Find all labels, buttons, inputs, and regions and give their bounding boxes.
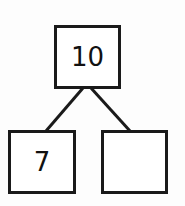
- line-to-right-part: [91, 88, 130, 131]
- line-to-left-part: [46, 88, 83, 131]
- whole-box: 10: [54, 25, 121, 89]
- left-part-box: 7: [8, 130, 76, 194]
- left-part-value: 7: [34, 147, 51, 177]
- whole-value: 10: [71, 42, 104, 72]
- right-part-box[interactable]: [101, 130, 168, 194]
